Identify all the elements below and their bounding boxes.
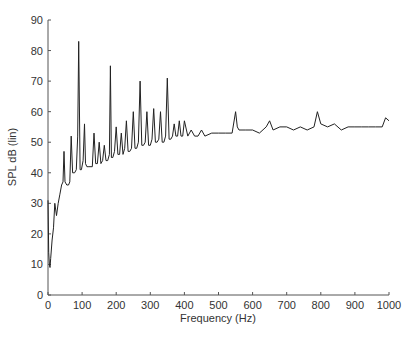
x-tick-label: 300 bbox=[141, 299, 159, 311]
y-axis-label: SPL dB (lin) bbox=[6, 128, 18, 186]
y-tick-label: 70 bbox=[31, 75, 43, 87]
y-tick-label: 90 bbox=[31, 14, 43, 26]
axes: 0100200300400500600700800900100001020304… bbox=[31, 14, 401, 311]
x-tick-label: 400 bbox=[175, 299, 193, 311]
x-tick-label: 1000 bbox=[377, 299, 401, 311]
x-tick-label: 500 bbox=[209, 299, 227, 311]
y-tick-label: 40 bbox=[31, 167, 43, 179]
y-tick-label: 30 bbox=[31, 197, 43, 209]
x-tick-label: 900 bbox=[346, 299, 364, 311]
x-tick-label: 600 bbox=[243, 299, 261, 311]
x-tick-label: 700 bbox=[278, 299, 296, 311]
y-tick-label: 80 bbox=[31, 45, 43, 57]
y-tick-label: 20 bbox=[31, 228, 43, 240]
y-tick-label: 60 bbox=[31, 106, 43, 118]
x-axis-label: Frequency (Hz) bbox=[180, 312, 256, 324]
spl-chart: 0100200300400500600700800900100001020304… bbox=[0, 0, 411, 340]
x-tick-label: 800 bbox=[312, 299, 330, 311]
y-tick-label: 0 bbox=[37, 289, 43, 301]
spl-series-line bbox=[48, 41, 389, 267]
x-tick-label: 200 bbox=[107, 299, 125, 311]
x-tick-label: 0 bbox=[45, 299, 51, 311]
y-tick-label: 50 bbox=[31, 136, 43, 148]
x-tick-label: 100 bbox=[73, 299, 91, 311]
y-tick-label: 10 bbox=[31, 258, 43, 270]
